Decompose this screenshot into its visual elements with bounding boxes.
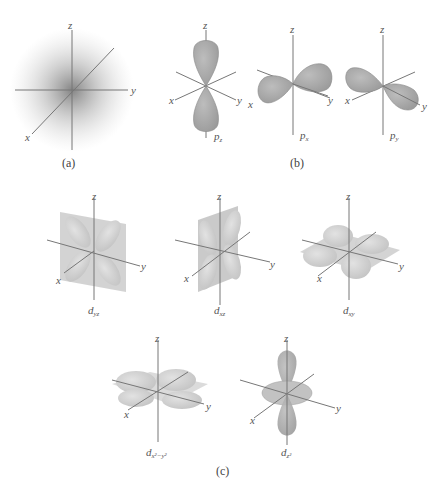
- pz-lower-lobe: [194, 86, 219, 132]
- y-axis-label: y: [269, 258, 275, 270]
- y-axis-label: y: [421, 100, 427, 112]
- px-front-lobe: [258, 76, 293, 103]
- x-axis-label: x: [55, 274, 61, 286]
- dz2-label: dz²: [281, 446, 292, 460]
- x-axis-label: x: [316, 272, 322, 284]
- dyz-orbital: z y x dyz: [47, 190, 146, 318]
- z-axis-label: z: [67, 19, 73, 31]
- dx2-y2-label: dx²−y²: [146, 446, 168, 460]
- panel-c-caption: (c): [216, 464, 229, 478]
- x-axis-label: x: [168, 94, 174, 106]
- px-label: px: [299, 129, 310, 143]
- px-back-lobe: [293, 64, 332, 92]
- dxz-label: dxz: [214, 304, 226, 318]
- z-axis-label: z: [283, 332, 289, 344]
- x-axis-label: x: [249, 414, 255, 426]
- z-axis-label: z: [345, 190, 351, 202]
- z-axis-label: z: [202, 19, 208, 31]
- z-axis-label: z: [154, 332, 160, 344]
- dyz-label: dyz: [88, 304, 100, 318]
- atomic-orbitals-figure: z y x (a) z x y pz z x y px z x y: [0, 0, 448, 487]
- y-axis-label: y: [205, 400, 211, 412]
- dx2-y2-lobe: [162, 391, 202, 409]
- y-axis-label: y: [335, 402, 341, 414]
- y-axis-label: y: [130, 84, 136, 96]
- py-label: py: [389, 129, 400, 143]
- z-axis-label: z: [216, 190, 222, 202]
- y-axis-label: y: [327, 94, 333, 106]
- y-axis-label: y: [236, 94, 242, 106]
- dx2-y2-orbital: z y x dx²−y²: [112, 332, 211, 460]
- dxy-lobe: [341, 253, 371, 279]
- px-orbital: z x y px: [247, 23, 333, 143]
- py-left-lobe: [346, 68, 383, 93]
- py-right-lobe: [383, 84, 418, 110]
- y-axis-label: y: [398, 260, 404, 272]
- dz2-orbital: z y x dz²: [240, 332, 341, 460]
- y-axis-label: y: [140, 260, 146, 272]
- pz-label: pz: [213, 130, 223, 144]
- x-axis-label: x: [344, 94, 350, 106]
- z-axis-label: z: [379, 23, 385, 35]
- x-axis-label: x: [183, 272, 189, 284]
- x-axis-label: x: [247, 98, 253, 110]
- s-orbital-panel: z y x (a): [10, 19, 136, 170]
- py-orbital: z x y py: [344, 23, 427, 143]
- dxy-orbital: z y x dxy: [300, 190, 404, 318]
- pz-upper-lobe: [194, 41, 219, 87]
- dxy-label: dxy: [343, 304, 356, 318]
- pz-orbital: z x y pz: [168, 19, 242, 144]
- panel-b-caption: (b): [290, 156, 304, 170]
- z-axis-label: z: [91, 190, 97, 202]
- x-axis-label: x: [24, 131, 30, 143]
- dx2-y2-lobe: [118, 389, 154, 407]
- dxy-lobe: [303, 245, 337, 267]
- x-axis-label: x: [123, 408, 129, 420]
- z-axis-label: z: [289, 23, 295, 35]
- dxz-orbital: z y x dxz: [175, 190, 275, 318]
- panel-a-caption: (a): [62, 156, 75, 170]
